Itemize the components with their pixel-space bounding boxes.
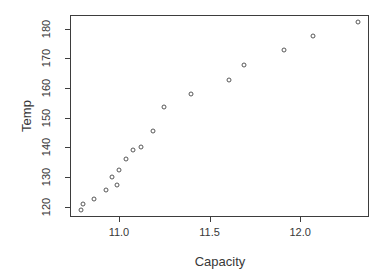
y-tick-label: 170 [41, 49, 52, 67]
x-tick [300, 217, 301, 222]
y-tick-label: 120 [41, 197, 52, 215]
y-tick-label: 160 [41, 79, 52, 97]
x-tick-label: 12.0 [289, 227, 310, 238]
data-point [124, 157, 129, 162]
y-tick-label: 150 [41, 108, 52, 126]
data-point [162, 105, 167, 110]
data-point [104, 188, 109, 193]
y-tick [65, 207, 70, 208]
data-point [356, 20, 361, 25]
y-tick [65, 29, 70, 30]
y-axis-label: Temp [20, 100, 33, 132]
scatter-plot-figure: Temp Capacity 11.011.512.012013014015016… [0, 0, 386, 277]
data-point [227, 77, 232, 82]
data-point [151, 128, 156, 133]
data-point [80, 202, 85, 207]
data-point [310, 34, 315, 39]
data-point [78, 207, 83, 212]
data-point [138, 144, 143, 149]
data-point [241, 63, 246, 68]
data-point [131, 148, 136, 153]
y-tick [65, 147, 70, 148]
y-tick [65, 88, 70, 89]
y-tick-label: 130 [41, 168, 52, 186]
data-point [281, 47, 286, 52]
y-tick-label: 140 [41, 138, 52, 156]
data-point [91, 196, 96, 201]
y-tick-label: 180 [41, 19, 52, 37]
data-point [189, 91, 194, 96]
y-tick [65, 58, 70, 59]
y-tick [65, 118, 70, 119]
x-tick [210, 217, 211, 222]
x-tick [119, 217, 120, 222]
y-tick [65, 177, 70, 178]
x-tick-label: 11.0 [109, 227, 130, 238]
x-axis-label: Capacity [195, 255, 246, 268]
x-tick-label: 11.5 [199, 227, 220, 238]
data-point [109, 174, 114, 179]
data-point [116, 167, 121, 172]
data-point [115, 182, 120, 187]
